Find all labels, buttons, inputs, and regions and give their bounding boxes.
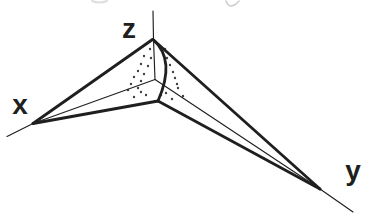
stipple-dot [174, 77, 176, 79]
stipple-dot [143, 73, 145, 75]
stipple-dot [166, 57, 168, 59]
z-axis-label: z [122, 13, 136, 44]
stipple-dot [150, 57, 152, 59]
stipple-dot [127, 89, 129, 91]
stipple-dot [182, 95, 184, 97]
edge-z-to-x [33, 40, 153, 124]
stipple-dot [143, 55, 145, 57]
y-axis-line [155, 80, 353, 213]
tetrahedron-diagram: x z y [0, 0, 371, 221]
stipple-dot [171, 98, 173, 100]
stipple-dot [169, 64, 171, 66]
z-axis-line [153, 11, 155, 80]
stipple-dot [176, 83, 178, 85]
edge-x-to-front [33, 101, 158, 124]
stipple-dot [140, 63, 142, 65]
stipple-dot [160, 94, 162, 96]
stipple-dot [137, 87, 139, 89]
stipple-dot [177, 87, 179, 89]
stipple-dots-group [127, 48, 184, 100]
stipple-dot [140, 91, 142, 93]
stipple-dot [140, 80, 142, 82]
stipple-dot [165, 92, 167, 94]
top-left-smudge [92, 1, 107, 3]
edge-z-to-y [153, 40, 320, 190]
stipple-dot [147, 65, 149, 67]
stipple-dot [164, 48, 166, 50]
edge-front-to-y [158, 101, 320, 189]
stipple-dot [133, 76, 135, 78]
top-right-smudge [226, 1, 239, 6]
stipple-dot [137, 70, 139, 72]
y-axis-label: y [345, 155, 361, 186]
stipple-dot [130, 83, 132, 85]
figure-canvas: x z y [0, 0, 371, 221]
stipple-dot [172, 71, 174, 73]
edges-group [33, 40, 320, 190]
scan-artifacts-group [92, 1, 239, 6]
x-axis-label: x [12, 89, 28, 120]
stipple-dot [145, 94, 147, 96]
stipple-dot [133, 96, 135, 98]
stipple-dot [149, 48, 151, 50]
